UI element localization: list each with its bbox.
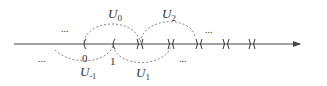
open-set-arcs — [55, 22, 195, 63]
label-u1: U1 — [136, 65, 150, 82]
label-u0: U0 — [108, 6, 122, 23]
arc-u0 — [84, 24, 140, 42]
label-u2: U2 — [162, 6, 176, 23]
label-one: 1 — [110, 55, 116, 67]
ellipsis-bottom-right: ... — [179, 53, 187, 64]
arc-u2 — [140, 22, 195, 42]
ellipsis-bottom-left: ... — [38, 53, 46, 64]
ellipsis-top-left: ... — [61, 23, 69, 34]
arc-u1 — [113, 46, 171, 63]
number-line-diagram: U0 U2 U-1 U1 0 1 ... ... ... ... — [0, 0, 327, 86]
ellipsis-top-right: ... — [205, 24, 213, 35]
label-u-1: U-1 — [80, 64, 96, 81]
label-zero: 0 — [82, 52, 88, 64]
